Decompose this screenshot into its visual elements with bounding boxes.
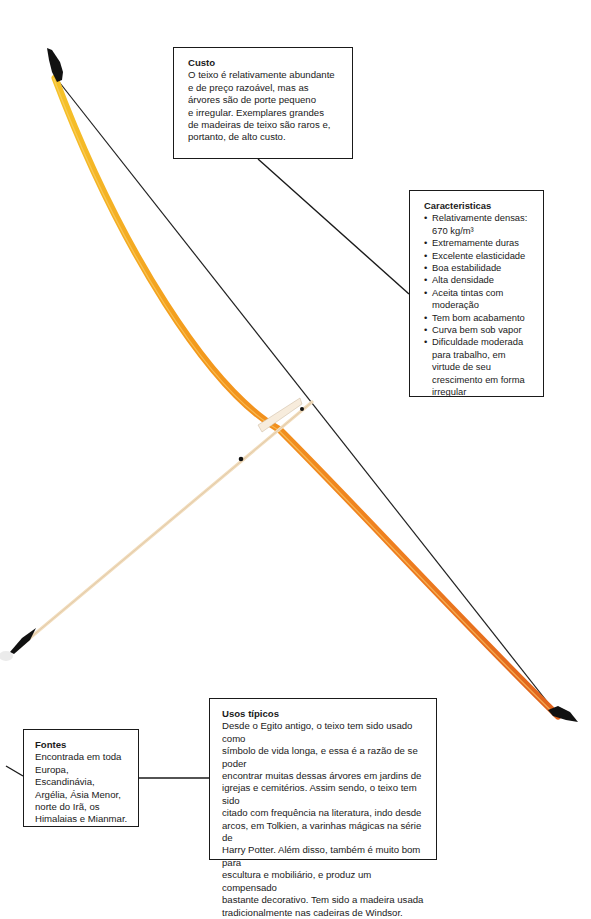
callout-usos-line: tradicionalmente nas cadeiras de Windsor… <box>222 907 426 919</box>
list-item: Extremamente duras <box>424 237 533 249</box>
list-item: Dificuldade moderada para trabalho, em v… <box>424 336 533 398</box>
callout-usos-title: Usos típicos <box>222 708 426 720</box>
callout-fontes-line: Himalaias e Mianmar. <box>35 813 128 825</box>
bow-tip-top-icon <box>47 48 63 82</box>
callout-usos-line: escultura e mobiliário, e produz um comp… <box>222 869 426 894</box>
callout-custo-line: e de preço razoável, mas as <box>188 82 342 94</box>
callout-fontes-title: Fontes <box>35 739 128 751</box>
list-item: Relativamente densas: 670 kg/m³ <box>424 212 533 237</box>
callout-usos-tipicos: Usos típicos Desde o Egito antigo, o tei… <box>209 698 437 860</box>
bow-tip-bottom-icon <box>548 706 578 722</box>
callout-usos-line: encontrar muitas dessas árvores em jardi… <box>222 770 426 782</box>
arrow <box>0 398 312 661</box>
leader-lines <box>6 159 409 778</box>
callout-usos-line: símbolo de vida longa, e essa é a razão … <box>222 745 426 770</box>
callout-custo-line: árvores são de porte pequeno <box>188 94 342 106</box>
list-item: Aceita tintas com moderação <box>424 287 533 312</box>
list-item: Excelente elasticidade <box>424 250 533 262</box>
callout-fontes-line: Argélia, Ásia Menor, <box>35 789 128 801</box>
callout-usos-line: Desde o Egito antigo, o teixo tem sido u… <box>222 720 426 745</box>
callout-custo-line: portanto, de alto custo. <box>188 131 342 143</box>
list-item: Alta densidade <box>424 274 533 286</box>
callout-caracteristicas: Caracteristicas Relativamente densas: 67… <box>409 190 544 397</box>
callout-custo: Custo O teixo é relativamente abundante … <box>173 47 353 159</box>
callout-usos-line: bastante decorativo. Tem sido a madeira … <box>222 894 426 906</box>
callout-custo-title: Custo <box>188 57 342 69</box>
callout-usos-line: igrejas e cemitérios. Assim sendo, o tei… <box>222 782 426 807</box>
callout-usos-line: Harry Potter. Além disso, também é muito… <box>222 844 426 869</box>
caracteristicas-list: Relativamente densas: 670 kg/m³ Extremam… <box>424 212 533 398</box>
arrowhead-icon <box>10 628 36 654</box>
list-item: Tem bom acabamento <box>424 312 533 324</box>
callout-caracteristicas-title: Caracteristicas <box>424 200 533 212</box>
leader-fontes-left <box>6 766 23 776</box>
list-item: Curva bem sob vapor <box>424 324 533 336</box>
callout-fontes: Fontes Encontrada em toda Europa, Escand… <box>23 729 139 827</box>
callout-usos-line: citado com frequência na literatura, ind… <box>222 807 426 819</box>
leader-custo <box>258 159 409 294</box>
callout-fontes-line: norte do Irã, os <box>35 801 128 813</box>
list-item: Boa estabilidade <box>424 262 533 274</box>
callout-custo-line: O teixo é relativamente abundante <box>188 69 342 81</box>
callout-custo-line: e irregular. Exemplares grandes <box>188 107 342 119</box>
callout-usos-line: arcos, em Tolkien, a varinhas mágicas na… <box>222 820 426 845</box>
callout-fontes-line: Encontrada em toda <box>35 751 128 763</box>
callout-custo-line: de madeiras de teixo são raros e, <box>188 119 342 131</box>
callout-fontes-line: Europa, Escandinávia, <box>35 764 128 789</box>
